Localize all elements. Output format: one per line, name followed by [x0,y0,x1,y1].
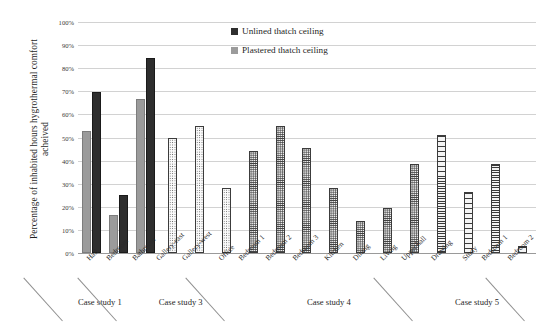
bar-group [78,22,105,253]
y-axis-tick-label: 100% [59,19,74,26]
y-axis-tick-label: 50% [62,134,74,141]
y-axis-tick-label: 60% [62,111,74,118]
group-label: Case study 4 [307,297,351,307]
bar-plastered-thatch-ceiling [136,99,145,253]
bar-group [159,22,186,253]
bar-group [482,22,509,253]
bar-group [347,22,374,253]
bar-group [132,22,159,253]
legend: Unlined thatch ceilingPlastered thatch c… [231,26,328,64]
group-separator [23,278,63,322]
bar-unlined-thatch-ceiling [146,58,155,253]
group-label: Case study 3 [159,297,203,307]
bar-group [509,22,536,253]
y-axis-tick-label: 90% [62,42,74,49]
bar-group [186,22,213,253]
y-axis-title: Percentage of inhabited hours hygrotherm… [23,23,57,255]
legend-swatch-icon [231,47,238,54]
bar-group [105,22,132,253]
x-axis-group-labels: Case study 1Case study 3Case study 4Case… [0,297,551,323]
y-axis-tick-label: 0% [65,250,74,257]
legend-item: Plastered thatch ceiling [231,45,328,55]
y-axis-tick-label: 10% [62,226,74,233]
group-label: Case study 5 [455,297,499,307]
bar-unlined-thatch-ceiling [276,126,285,253]
y-axis-tick-label: 20% [62,203,74,210]
legend-label: Unlined thatch ceiling [242,26,324,36]
legend-swatch-icon [231,28,238,35]
y-axis-tick-label: 30% [62,180,74,187]
y-axis-tick-label: 80% [62,65,74,72]
bar-group [401,22,428,253]
legend-item: Unlined thatch ceiling [231,26,328,36]
bar-plastered-thatch-ceiling [82,131,91,253]
y-axis-tick-label: 40% [62,157,74,164]
bar-group [374,22,401,253]
bar-unlined-thatch-ceiling [92,92,101,253]
bar-unlined-thatch-ceiling [437,135,446,253]
legend-label: Plastered thatch ceiling [242,45,328,55]
bar-group [428,22,455,253]
bar-chart: Percentage of inhabited hours hygrotherm… [0,0,551,331]
bar-group [455,22,482,253]
y-axis-tick-label: 70% [62,88,74,95]
